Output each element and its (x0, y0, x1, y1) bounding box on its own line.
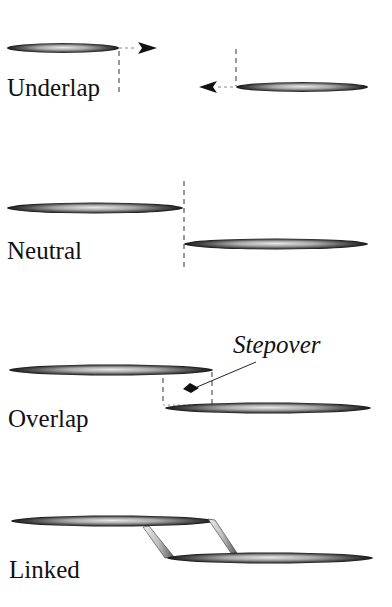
fault-segment-left (11, 516, 215, 527)
panel-label-underlap: Underlap (7, 75, 100, 100)
panel-label-overlap: Overlap (8, 406, 89, 431)
panel-label-linked: Linked (9, 557, 80, 582)
linking-strip-left (143, 526, 174, 558)
fault-segment-left (9, 365, 213, 376)
stepover-diamond-icon (183, 383, 199, 393)
fault-segment-right (165, 403, 371, 414)
fault-segment-left (7, 43, 119, 53)
fault-segment-left (7, 203, 183, 214)
linking-strip-right (208, 519, 237, 553)
fault-segment-right (236, 82, 368, 92)
arrow-left-icon (199, 81, 217, 93)
stepover-annotation: Stepover (233, 332, 320, 357)
fault-segment-right (167, 553, 373, 564)
stepover-leader-line (197, 362, 256, 387)
panel-label-neutral: Neutral (7, 238, 82, 263)
arrow-right-icon (138, 42, 157, 54)
fault-segment-right (184, 239, 368, 250)
